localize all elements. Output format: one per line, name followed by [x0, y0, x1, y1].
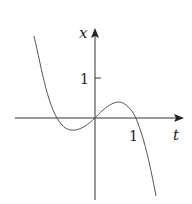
x-tick-label-1: 1: [129, 128, 138, 144]
y-tick-label-1: 1: [80, 71, 89, 87]
y-axis-label: x: [79, 24, 88, 42]
x-axis-label: t: [173, 126, 180, 144]
graph: x 1 1 t: [0, 0, 192, 204]
